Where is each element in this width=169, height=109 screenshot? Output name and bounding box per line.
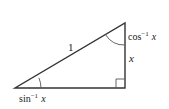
top-angle-exp: −1 <box>141 30 149 38</box>
hypotenuse-label: 1 <box>68 41 74 53</box>
angle-arc-cos <box>106 35 126 45</box>
angle-arc-sin <box>39 78 41 88</box>
bottom-angle-exp: −1 <box>31 92 39 100</box>
top-angle-var: x <box>151 31 157 42</box>
right-triangle-diagram: 1 x cos−1x sin−1x <box>0 0 169 109</box>
top-angle-label: cos−1x <box>128 30 157 42</box>
bottom-angle-label: sin−1x <box>19 92 46 104</box>
top-angle-func: cos <box>128 31 141 42</box>
triangle <box>15 23 125 88</box>
vertical-side-label: x <box>128 52 134 64</box>
bottom-angle-var: x <box>40 93 46 104</box>
bottom-angle-func: sin <box>19 93 31 104</box>
right-angle-marker <box>116 79 125 88</box>
